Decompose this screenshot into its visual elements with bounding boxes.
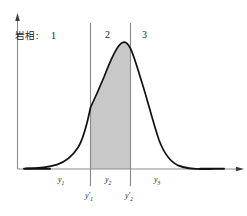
- zone-axis-label-2: y2: [105, 176, 111, 186]
- boundary-label-2: y′2: [125, 192, 133, 202]
- lithofacies-distribution-figure: 岩相: 1 2 3 y1 y2 y3 y′1 y′2: [0, 0, 247, 216]
- boundary-label-2-sub: 2: [130, 196, 133, 202]
- boundary-label-1-sub: 1: [90, 196, 93, 202]
- zone-axis-label-1: y1: [58, 176, 64, 186]
- y-axis-arrow-icon: [15, 13, 20, 21]
- zone-axis-label-3: y3: [154, 176, 160, 186]
- boundary-label-1: y′1: [85, 192, 93, 202]
- zone-axis-label-3-sub: 3: [158, 180, 161, 186]
- zone-number-3: 3: [142, 30, 147, 40]
- zone-axis-label-2-sub: 2: [109, 180, 112, 186]
- facies-caption-label: 岩相:: [15, 31, 39, 41]
- zone-number-1: 1: [51, 31, 56, 41]
- x-axis-arrow-icon: [236, 167, 244, 171]
- zone-axis-label-1-sub: 1: [62, 180, 65, 186]
- zone-number-2: 2: [105, 30, 110, 40]
